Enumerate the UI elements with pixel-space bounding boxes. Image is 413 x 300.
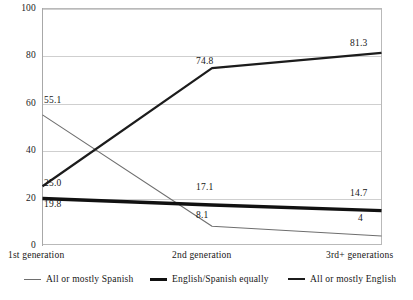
x-category-3rd-generations: 3rd+ generations — [326, 250, 393, 261]
legend-item-english-spanish-equally[interactable]: English/Spanish equally — [150, 272, 269, 286]
series-line-all-or-mostly-spanish — [43, 115, 382, 236]
value-label-english-gen3: 81.3 — [350, 38, 367, 48]
legend-label-equally: English/Spanish equally — [172, 274, 269, 285]
legend-label-english: All or mostly English — [310, 274, 396, 285]
legend-line-spanish-icon — [24, 279, 41, 280]
x-category-1st-generation: 1st generation — [8, 250, 64, 261]
value-label-english-gen2: 74.8 — [196, 56, 213, 66]
series-line-all-or-mostly-english — [43, 53, 382, 186]
line-chart: 100 80 60 40 20 0 55.1 25.0 19.8 74.8 17… — [0, 0, 413, 300]
chart-legend: All or mostly Spanish English/Spanish eq… — [0, 272, 413, 290]
legend-label-spanish: All or mostly Spanish — [46, 274, 133, 285]
value-label-english-gen1: 25.0 — [44, 178, 61, 188]
value-label-equally-gen2: 17.1 — [196, 182, 213, 192]
legend-item-all-or-mostly-spanish[interactable]: All or mostly Spanish — [24, 272, 133, 286]
value-label-spanish-gen2: 8.1 — [196, 210, 208, 220]
legend-item-all-or-mostly-english[interactable]: All or mostly English — [288, 272, 396, 286]
value-label-spanish-gen1: 55.1 — [44, 95, 61, 105]
x-category-2nd-generation: 2nd generation — [172, 250, 232, 261]
legend-line-english-icon — [288, 278, 305, 280]
legend-line-equally-icon — [150, 278, 167, 281]
value-label-spanish-gen3: 4 — [358, 213, 363, 223]
value-label-equally-gen1: 19.8 — [44, 199, 61, 209]
value-label-equally-gen3: 14.7 — [350, 188, 367, 198]
series-line-english-spanish-equally — [43, 199, 382, 211]
